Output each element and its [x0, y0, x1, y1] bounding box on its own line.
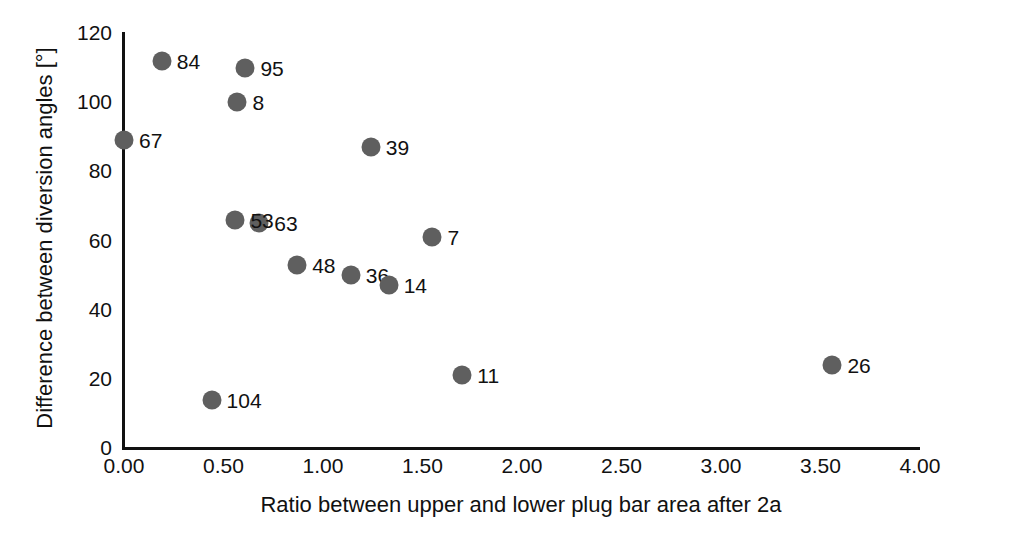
data-point-label: 7: [447, 227, 459, 248]
data-point-marker: [823, 356, 842, 375]
data-point-label: 104: [227, 389, 262, 410]
data-point-marker: [226, 210, 245, 229]
data-point-label: 84: [177, 50, 200, 71]
data-point-marker: [202, 390, 221, 409]
scatter-plot-figure: 020406080100120 0.000.501.001.502.002.50…: [0, 0, 1034, 549]
data-point-label: 95: [260, 57, 283, 78]
plot-area: 849586739635374836142611104: [0, 0, 1034, 549]
data-point-label: 63: [274, 213, 297, 234]
data-point-marker: [361, 138, 380, 157]
data-point-label: 48: [312, 254, 335, 275]
data-point-label: 8: [252, 92, 264, 113]
data-point-marker: [423, 228, 442, 247]
data-point-label: 67: [139, 130, 162, 151]
data-point-marker: [228, 93, 247, 112]
data-point-label: 14: [404, 275, 427, 296]
data-point-label: 53: [250, 209, 273, 230]
y-axis-title: Difference between diversion angles [°]: [32, 18, 58, 458]
data-point-label: 26: [847, 355, 870, 376]
x-axis-title: Ratio between upper and lower plug bar a…: [122, 492, 920, 518]
data-point-marker: [379, 276, 398, 295]
data-point-label: 11: [477, 365, 499, 386]
data-point-marker: [115, 131, 134, 150]
data-point-marker: [152, 51, 171, 70]
data-point-marker: [453, 366, 472, 385]
data-point-marker: [341, 266, 360, 285]
data-point-label: 39: [386, 137, 409, 158]
data-point-marker: [288, 255, 307, 274]
data-point-marker: [236, 58, 255, 77]
